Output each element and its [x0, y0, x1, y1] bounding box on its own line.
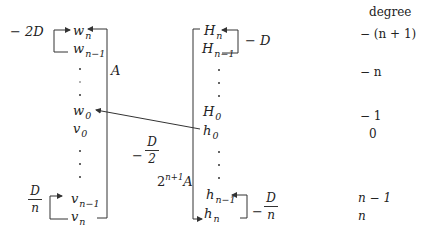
- node-h-0: h0: [203, 124, 218, 137]
- cross-arrow-sign: −: [132, 149, 143, 162]
- node-v-0: v0: [73, 122, 87, 135]
- degree-header: degree: [369, 6, 411, 18]
- node-H-0: H0: [203, 105, 221, 118]
- ellipsis-dot: [218, 82, 220, 84]
- right-top-loop-label: − D: [245, 34, 270, 47]
- ellipsis-dot: [79, 176, 81, 178]
- node-w-n: wn: [73, 24, 91, 37]
- degree-value: − (n + 1): [360, 28, 416, 40]
- right-bottom-loop-label: Dn: [264, 192, 278, 221]
- node-H-n: Hn: [204, 24, 222, 37]
- node-H-n-1: Hn−1: [202, 42, 234, 55]
- ellipsis-dot: [218, 164, 220, 166]
- node-h-n: hn: [204, 207, 220, 220]
- ellipsis-dot: [218, 95, 220, 97]
- ellipsis-dot: [79, 163, 81, 165]
- degree-value: n: [358, 210, 366, 222]
- ellipsis-dot: [79, 94, 81, 96]
- degree-value: − 1: [360, 110, 382, 122]
- right-side-label: 2n+1A: [157, 175, 193, 188]
- node-w-0: w0: [73, 104, 91, 117]
- node-v-n: vn: [71, 210, 85, 223]
- ellipsis-dot: [79, 150, 81, 152]
- ellipsis-dot: [79, 81, 81, 83]
- cross-arrow-label: D2: [145, 136, 159, 165]
- left-side-label-A: A: [111, 64, 120, 77]
- ellipsis-dot: [218, 69, 220, 71]
- ellipsis-dot: [218, 177, 220, 179]
- degree-value: − n: [360, 66, 382, 78]
- ellipsis-dot: [218, 151, 220, 153]
- left-bottom-loop-label: Dn: [28, 185, 42, 214]
- degree-value: n − 1: [358, 192, 391, 204]
- left-top-loop-label: − 2D: [10, 25, 44, 38]
- right-bottom-loop-sign: −: [252, 205, 263, 218]
- cross-arrow: [96, 110, 200, 129]
- left-top-loop-arrow: [54, 30, 70, 52]
- left-bottom-loop-arrow: [50, 196, 68, 219]
- degree-value: 0: [369, 128, 377, 140]
- node-w-n-1: wn−1: [73, 42, 105, 55]
- right-2n1A-arrow: [193, 29, 202, 219]
- ellipsis-dot: [79, 68, 81, 70]
- node-h-n-1: hn−1: [206, 188, 236, 201]
- node-v-n-1: vn−1: [71, 192, 99, 205]
